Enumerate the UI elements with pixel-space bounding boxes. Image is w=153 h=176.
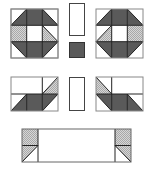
top-center-rectangle <box>70 4 85 36</box>
top-center-square <box>70 43 85 58</box>
bottom-strip <box>22 129 131 162</box>
quilt-diagram <box>0 0 153 176</box>
middle-right-block <box>96 77 143 111</box>
middle-center-rectangle <box>70 78 85 111</box>
middle-left-block <box>11 77 58 111</box>
top-left-block <box>11 9 58 58</box>
top-right-block <box>96 9 143 58</box>
